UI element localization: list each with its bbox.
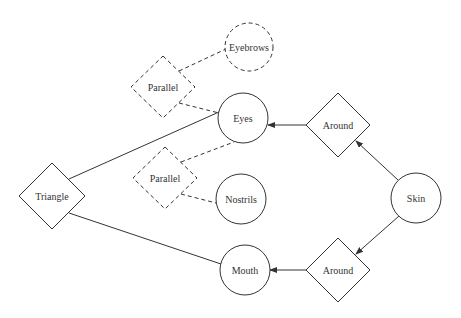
node-label: Skin — [407, 193, 425, 204]
edges-layer — [69, 49, 399, 270]
node-label: Eyes — [233, 113, 253, 124]
node-mouth: Mouth — [220, 245, 270, 295]
node-parallel-top: Parallel — [131, 56, 195, 118]
node-label: Parallel — [148, 82, 179, 93]
edge-parallel_bottom-to-nostrils — [181, 194, 216, 203]
edge-skin-to-around_bottom — [356, 216, 399, 254]
node-around-top: Around — [306, 93, 370, 157]
node-label: Triangle — [35, 191, 69, 202]
node-parallel-bottom: Parallel — [133, 147, 197, 209]
diagram-canvas: TriangleParallelParallelEyebrowsEyesNost… — [0, 0, 461, 318]
node-label: Mouth — [232, 265, 259, 276]
node-label: Around — [323, 120, 354, 131]
node-eyes: Eyes — [218, 93, 268, 143]
diagram-svg: TriangleParallelParallelEyebrowsEyesNost… — [0, 0, 461, 318]
node-triangle: Triangle — [19, 163, 85, 229]
edge-skin-to-around_top — [356, 141, 398, 180]
edge-parallel_bottom-to-eyes — [181, 142, 234, 162]
node-eyebrows: Eyebrows — [225, 23, 273, 71]
node-skin: Skin — [391, 173, 441, 223]
node-label: Eyebrows — [229, 42, 269, 53]
node-nostrils: Nostrils — [216, 174, 266, 224]
node-around-bottom: Around — [306, 238, 370, 302]
nodes-layer: TriangleParallelParallelEyebrowsEyesNost… — [19, 23, 441, 302]
node-label: Nostrils — [225, 194, 257, 205]
node-label: Around — [323, 265, 354, 276]
edge-triangle-to-mouth — [69, 213, 221, 264]
edge-parallel_top-to-eyebrows — [179, 49, 226, 71]
node-label: Parallel — [150, 173, 181, 184]
edge-parallel_top-to-eyes — [179, 103, 219, 113]
